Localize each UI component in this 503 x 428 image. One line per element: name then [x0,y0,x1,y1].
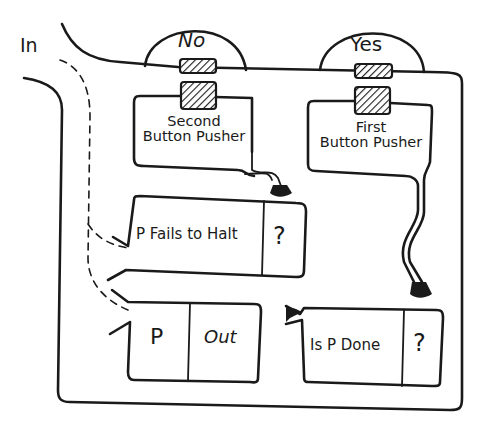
fails-to-halt-result: ? [273,224,286,249]
second-pusher-line2: Button Pusher [138,129,250,144]
is-done-result: ? [413,331,426,356]
no-button-top [180,59,216,73]
yes-button-top [355,64,392,78]
second-pusher-line1: Second [138,114,250,129]
dome-no-label: No [178,30,205,51]
machine-body [24,24,462,410]
halting-machine-diagram [0,0,503,428]
fails-to-halt-label: P Fails to Halt [136,227,238,243]
input-path [60,60,128,310]
dome-yes-label: Yes [350,34,382,55]
second-pusher-button [181,82,216,109]
first-pusher-line2: Button Pusher [312,135,430,150]
first-pusher-line1: First [312,120,430,135]
program-output: Out [204,328,237,347]
is-done-label: Is P Done [310,338,380,354]
first-pusher-label: First Button Pusher [312,120,430,150]
program-label: P [150,325,163,348]
program-box [110,290,261,382]
second-pusher-label: Second Button Pusher [138,114,250,144]
first-pusher-button [355,87,390,114]
input-label: In [20,36,38,56]
